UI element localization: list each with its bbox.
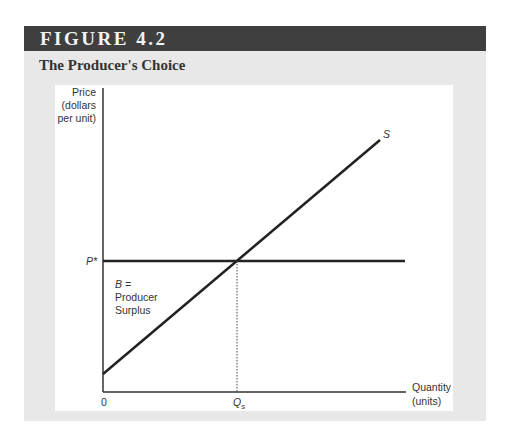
y-axis-label-3: per unit) bbox=[57, 112, 96, 124]
qs-label: Qs bbox=[233, 396, 245, 411]
surplus-label-1: B = bbox=[115, 278, 131, 290]
x-axis-label-2: (units) bbox=[412, 395, 441, 407]
x-axis-label-1: Quantity bbox=[412, 381, 452, 393]
supply-label: S bbox=[383, 128, 390, 140]
qs-sub: s bbox=[241, 402, 245, 411]
chart-svg: Price (dollars per unit) Quantity (units… bbox=[0, 0, 509, 440]
surplus-label-3: Surplus bbox=[115, 304, 151, 316]
supply-curve bbox=[103, 140, 380, 374]
y-axis-label-2: (dollars bbox=[62, 99, 96, 111]
origin-label: 0 bbox=[101, 396, 107, 408]
qs-main: Q bbox=[233, 396, 241, 408]
pstar-label: P* bbox=[86, 255, 98, 267]
surplus-label-2: Producer bbox=[115, 291, 158, 303]
y-axis-label-1: Price bbox=[72, 86, 96, 98]
surplus-b: B = bbox=[115, 278, 131, 290]
